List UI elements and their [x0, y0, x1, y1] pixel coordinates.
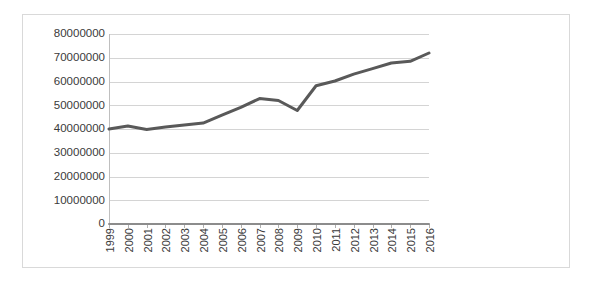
x-axis-tick-label: 2004 — [198, 228, 210, 252]
x-axis-tick-label: 2008 — [273, 228, 285, 252]
x-axis-tick-label: 2013 — [368, 228, 380, 252]
y-axis-tick-label: 80000000 — [27, 28, 105, 39]
y-axis-labels: 80000000 70000000 60000000 50000000 4000… — [23, 34, 105, 224]
x-axis-tick-label: 2009 — [292, 228, 304, 252]
x-axis-tick-label: 2012 — [349, 228, 361, 252]
plot-area — [109, 34, 429, 224]
x-axis-tick-label: 2016 — [424, 228, 436, 252]
y-axis-tick-label: 20000000 — [27, 171, 105, 182]
x-axis-tick-label: 2011 — [330, 228, 342, 252]
y-axis-tick-label: 50000000 — [27, 100, 105, 111]
x-axis-tick-label: 1999 — [104, 228, 116, 252]
y-axis-tick-label: 10000000 — [27, 195, 105, 206]
x-axis-tick-label: 2010 — [311, 228, 323, 252]
y-axis-tick-label: 60000000 — [27, 76, 105, 87]
x-axis-tick-label: 2006 — [236, 228, 248, 252]
y-axis-tick-label: 0 — [27, 218, 105, 229]
series-plot — [109, 34, 429, 224]
chart-container: 80000000 70000000 60000000 50000000 4000… — [22, 14, 570, 268]
x-axis-tick-label: 2005 — [217, 228, 229, 252]
x-axis-tick-label: 2000 — [123, 228, 135, 252]
y-axis-tick-label: 40000000 — [27, 123, 105, 134]
series-line-cars — [109, 53, 429, 129]
y-axis-tick-label: 70000000 — [27, 52, 105, 63]
x-axis-tick-label: 2001 — [142, 228, 154, 252]
x-axis-tick-label: 2003 — [179, 228, 191, 252]
x-axis-tick-label: 2007 — [255, 228, 267, 252]
x-axis-tick-label: 2015 — [405, 228, 417, 252]
x-axis-tick-label: 2014 — [386, 228, 398, 252]
y-axis-tick-label: 30000000 — [27, 147, 105, 158]
x-axis-labels: 1999200020012002200320042005200620072008… — [109, 228, 429, 270]
x-axis-tick-label: 2002 — [160, 228, 172, 252]
